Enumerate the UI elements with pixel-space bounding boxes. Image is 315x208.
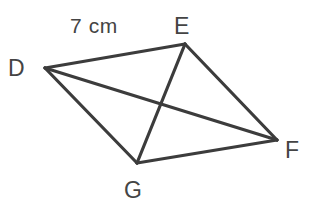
vertex-label-f: F	[285, 137, 299, 163]
diagonal-e-g	[137, 44, 185, 163]
measurement-annotations: 7 cm	[70, 14, 118, 37]
vertex-label-g: G	[124, 177, 142, 203]
diagram-canvas: D E F G 7 cm	[0, 0, 315, 208]
vertex-label-d: D	[8, 55, 25, 81]
quadrilateral-figure: D E F G 7 cm	[0, 0, 315, 208]
edge-f-g	[137, 140, 277, 163]
edge-d-e	[45, 44, 185, 68]
vertex-labels: D E F G	[8, 13, 299, 203]
side-length-label-de: 7 cm	[70, 14, 118, 37]
vertex-label-e: E	[174, 13, 190, 39]
